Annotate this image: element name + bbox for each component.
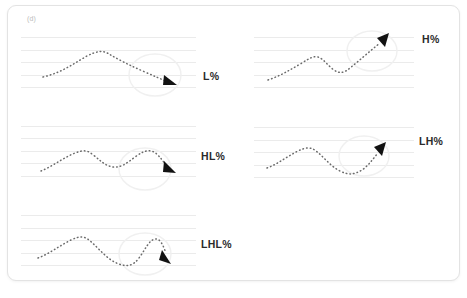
plot-area-low-high [254,118,414,188]
arrow-head [377,33,389,47]
curve-path [267,148,378,174]
trend-curve-low [21,25,196,95]
plot-area-high [254,25,414,95]
subchart-high-low: HL% [21,116,196,186]
subchart-low-high: LH% [254,118,414,188]
highlight-circle [119,148,171,190]
curve-path [38,237,166,266]
arrow-head [163,75,177,85]
curve-path [41,151,167,171]
trend-curve-high-low [21,116,196,186]
plot-area-high-low [21,116,196,186]
panel-label: (d) [27,14,36,24]
series-label-high-low: HL% [201,150,225,162]
curve-path [268,43,380,80]
series-label-low-high: LH% [419,135,443,147]
series-label-low-high-low: LHL% [201,238,232,250]
trend-curve-high [254,25,414,95]
highlight-circle [339,136,389,176]
plot-area-low-high-low [21,206,196,276]
series-label-high: H% [422,33,440,45]
trend-curve-low-high-low [21,206,196,276]
subchart-high: H% [254,25,414,95]
arrow-head [159,250,171,264]
subchart-low: L% [21,25,196,95]
series-label-low: L% [203,70,219,82]
figure-card: (d) L% [7,5,460,281]
subchart-low-high-low: LHL% [21,206,196,276]
plot-area-low [21,25,196,95]
trend-curve-low-high [254,118,414,188]
highlight-circle [129,54,181,96]
arrow-head [374,142,386,156]
curve-path [43,52,168,82]
